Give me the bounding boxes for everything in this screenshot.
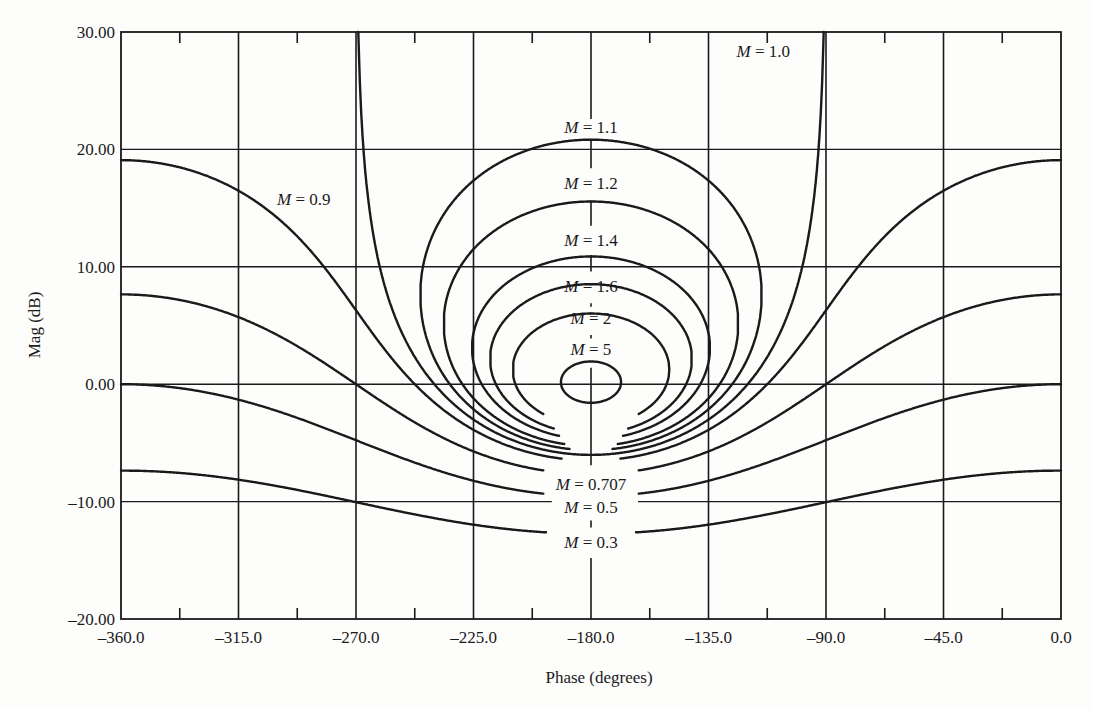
contour-label-m-0-3: M = 0.3 [563, 533, 618, 552]
y-axis-tick-labels: –20.00–10.000.0010.0020.0030.00 [67, 23, 115, 629]
y-axis-title: Mag (dB) [25, 292, 44, 359]
x-axis-tick-labels: –360.0–315.0–270.0–225.0–180.0–135.0–90.… [97, 628, 1072, 647]
nichols-chart: M = 5M = 2M = 1.6M = 1.4M = 1.2M = 1.1M … [0, 0, 1093, 710]
contour-label-m-0-9: M = 0.9 [276, 190, 331, 209]
x-axis-title: Phase (degrees) [545, 668, 652, 687]
m-contour [639, 384, 1061, 493]
x-tick-label: –270.0 [332, 628, 380, 647]
x-tick-label: –360.0 [97, 628, 145, 647]
y-tick-label: –20.00 [67, 610, 115, 629]
x-tick-label: –90.0 [806, 628, 845, 647]
y-tick-label: 30.00 [77, 23, 115, 42]
x-tick-label: –45.0 [923, 628, 962, 647]
m-contour [121, 384, 543, 493]
contour-label-m-0-5: M = 0.5 [563, 498, 618, 517]
y-tick-label: 20.00 [77, 140, 115, 159]
y-tick-label: –10.00 [67, 493, 115, 512]
contour-label-m-1-2: M = 1.2 [563, 174, 618, 193]
contour-label-m-0-707: M = 0.707 [555, 475, 627, 494]
x-tick-label: –135.0 [684, 628, 732, 647]
x-tick-label: –315.0 [214, 628, 262, 647]
contour-label-m-5: M = 5 [570, 340, 612, 359]
contour-label-m-2: M = 2 [570, 309, 612, 328]
x-tick-label: 0.0 [1050, 628, 1071, 647]
x-tick-label: –225.0 [449, 628, 497, 647]
m-contour [121, 160, 562, 459]
contour-label-m-1-6: M = 1.6 [563, 277, 618, 296]
contour-label-m-1-1: M = 1.1 [563, 118, 618, 137]
y-tick-label: 0.00 [85, 375, 115, 394]
x-tick-label: –180.0 [567, 628, 615, 647]
m-contour [620, 160, 1061, 459]
contour-label-m-1: M = 1.0 [736, 42, 791, 61]
contour-label-m-1-4: M = 1.4 [563, 231, 618, 250]
y-tick-label: 10.00 [77, 258, 115, 277]
